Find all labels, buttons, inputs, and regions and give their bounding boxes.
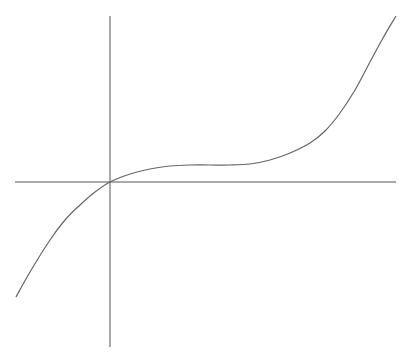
chart	[0, 0, 409, 361]
data-curve	[16, 16, 396, 297]
